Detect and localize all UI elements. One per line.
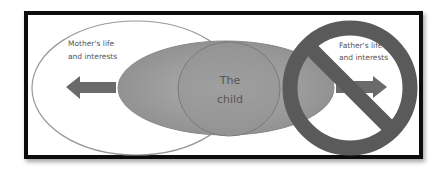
child-circle: [178, 42, 280, 136]
mother-label-2: and interests: [68, 52, 117, 61]
child-label-2: child: [217, 93, 243, 106]
father-label-2: and interests: [339, 53, 388, 62]
child-label: The: [219, 74, 241, 87]
diagram: Mother's life and interests Father's lif…: [0, 0, 441, 174]
mother-label: Mother's life: [68, 39, 115, 48]
